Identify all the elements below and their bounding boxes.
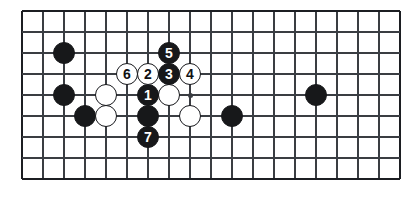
- black-stone: [53, 84, 75, 106]
- white-stone: [95, 84, 117, 106]
- stone-move-number: 2: [144, 67, 152, 81]
- stone-move-number: 4: [186, 67, 194, 81]
- black-stone-move-5: 5: [158, 42, 180, 64]
- black-stone: [305, 84, 327, 106]
- black-stone-move-3: 3: [158, 63, 180, 85]
- stone-move-number: 7: [144, 130, 152, 144]
- white-stone-move-2: 2: [137, 63, 159, 85]
- stone-move-number: 6: [123, 67, 131, 81]
- white-stone: [158, 84, 180, 106]
- white-stone-move-6: 6: [116, 63, 138, 85]
- stone-move-number: 3: [165, 67, 173, 81]
- star-point: [188, 93, 193, 98]
- go-board-diagram: 1234567: [0, 0, 413, 210]
- black-stone: [74, 105, 96, 127]
- black-stone: [221, 105, 243, 127]
- stone-move-number: 1: [144, 88, 152, 102]
- white-stone: [179, 105, 201, 127]
- stone-move-number: 5: [165, 46, 173, 60]
- white-stone-move-4: 4: [179, 63, 201, 85]
- black-stone: [137, 105, 159, 127]
- black-stone: [53, 42, 75, 64]
- white-stone: [95, 105, 117, 127]
- black-stone-move-7: 7: [137, 126, 159, 148]
- black-stone-move-1: 1: [137, 84, 159, 106]
